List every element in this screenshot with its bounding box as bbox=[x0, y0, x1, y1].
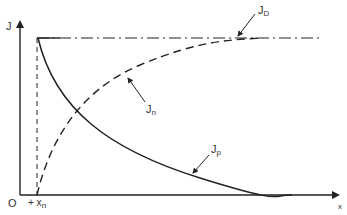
xn-tick-sub: n bbox=[42, 201, 46, 210]
jp-leader-arrow bbox=[193, 155, 209, 173]
jn-curve bbox=[37, 38, 262, 195]
xn-tick-label: + xn bbox=[28, 197, 46, 210]
jn-leader-arrow bbox=[128, 78, 145, 102]
x-axis-label: x bbox=[338, 202, 342, 211]
jd-label-sub: D bbox=[264, 9, 270, 18]
jn-label: Jn bbox=[146, 103, 156, 117]
jn-label-sub: n bbox=[152, 108, 156, 117]
current-density-diagram: J x O + xn JD Jn Jp bbox=[0, 0, 347, 215]
jp-label-sub: p bbox=[217, 148, 222, 157]
jd-label: JD bbox=[258, 4, 270, 18]
y-axis-label: J bbox=[6, 20, 12, 32]
jp-label: Jp bbox=[211, 143, 222, 157]
jp-curve bbox=[38, 38, 292, 197]
xn-tick-main: + x bbox=[28, 197, 42, 208]
origin-label: O bbox=[8, 197, 17, 209]
jd-leader-arrow bbox=[238, 14, 255, 36]
